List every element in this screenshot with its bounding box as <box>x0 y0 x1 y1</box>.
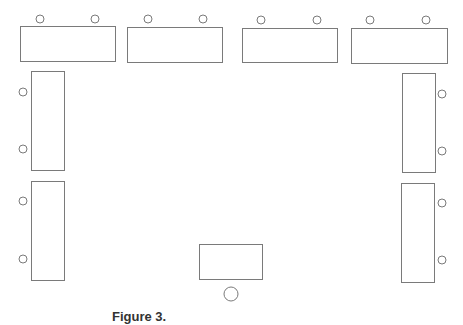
table-group-top-4 <box>352 16 448 64</box>
chair-icon <box>422 16 430 24</box>
chair-icon <box>36 15 44 23</box>
table-left-1 <box>32 72 65 171</box>
table-group-right-2 <box>402 184 447 283</box>
table-group-left-2 <box>19 182 65 281</box>
chair-icon <box>313 16 321 24</box>
table-top-4 <box>352 29 448 64</box>
chair-icon <box>199 15 207 23</box>
table-group-top-1 <box>21 15 116 62</box>
table-group-left-1 <box>19 72 65 171</box>
table-front-teacher <box>200 245 263 280</box>
table-right-1 <box>403 74 436 173</box>
chair-icon <box>19 88 27 96</box>
chair-icon <box>91 15 99 23</box>
table-top-2 <box>128 28 223 63</box>
table-group-front-teacher <box>200 245 263 302</box>
chair-icon <box>438 256 446 264</box>
chair-icon <box>438 147 446 155</box>
chair-icon <box>438 199 446 207</box>
chair-icon <box>257 16 265 24</box>
table-group-right-1 <box>403 74 447 173</box>
table-left-2 <box>32 182 65 281</box>
table-group-top-3 <box>243 16 338 63</box>
table-top-3 <box>243 29 338 63</box>
chair-icon <box>19 145 27 153</box>
chair-icon <box>366 16 374 24</box>
chair-icon <box>438 90 446 98</box>
chair-icon <box>19 255 27 263</box>
table-group-top-2 <box>128 15 223 63</box>
figure-label: Figure 3. <box>112 309 166 324</box>
chair-icon <box>224 287 238 301</box>
chair-icon <box>144 15 152 23</box>
table-right-2 <box>402 184 435 283</box>
table-top-1 <box>21 27 116 62</box>
figure-caption: Figure 3. <box>112 309 166 325</box>
chair-icon <box>19 197 27 205</box>
